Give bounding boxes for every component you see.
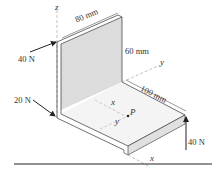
x-axis-bottom-label: x (150, 154, 154, 163)
horizontal-plate-bottom-left (124, 153, 128, 155)
y-axis-top-line (122, 65, 160, 82)
force-arrow-top-left (30, 42, 56, 52)
force-arrow-bottom-left (33, 100, 55, 116)
bracket-diagram (0, 0, 220, 174)
force-label-bottom-left: 20 N (14, 96, 31, 105)
force-label-top-left: 40 N (18, 55, 35, 64)
point-p-marker (127, 115, 130, 118)
y-axis-mid-label: y (115, 117, 119, 126)
x-axis-mid-label: x (111, 98, 115, 107)
point-p-label: P (130, 108, 136, 117)
force-label-right: 40 N (188, 138, 205, 147)
z-axis-label: z (55, 3, 59, 12)
y-axis-top-label: y (160, 58, 164, 67)
dim-60mm-label: 60 mm (125, 47, 149, 56)
x-axis-bottom-line (128, 155, 150, 167)
